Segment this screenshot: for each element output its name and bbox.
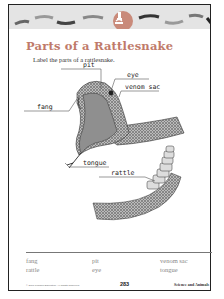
word-bank-item: tongue [160,266,178,273]
snake-tail-illustration [93,146,181,220]
label-tongue: tongue [83,159,106,167]
word-bank-item: rattle [26,266,39,273]
label-venom-sac: venom sac [125,83,160,91]
label-rattle: rattle [111,169,134,177]
subject-label: Science and Animals [174,282,209,287]
word-bank-item: venom sac [160,257,188,264]
rattlesnake-diagram [9,5,212,250]
page-number: 283 [120,281,129,287]
word-bank-item: fang [26,257,38,264]
label-pit: pit [83,61,95,69]
label-eye: eye [127,71,139,79]
word-bank-item: pit [92,257,99,264]
divider [26,252,212,253]
copyright: © 2001 Pearson Education. All Rights Res… [26,284,80,287]
label-fang: fang [37,103,53,111]
worksheet-page: Parts of a Rattlesnake Label the parts o… [8,4,211,291]
word-bank-item: eye [92,266,101,273]
